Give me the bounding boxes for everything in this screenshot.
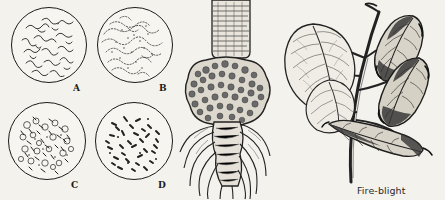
field-b-contents <box>98 8 172 82</box>
microscope-field-c <box>8 102 86 180</box>
field-a-label: A <box>73 83 80 93</box>
crown-gall-root <box>178 0 288 200</box>
microscope-field-a <box>11 7 87 83</box>
illustration-plate: A <box>0 0 445 200</box>
field-b-label: B <box>159 83 167 93</box>
field-d-contents <box>96 103 172 179</box>
field-d-label: D <box>158 180 166 190</box>
microscope-field-b <box>97 7 173 83</box>
microscope-field-d <box>95 102 173 180</box>
field-a-contents <box>12 8 86 82</box>
field-c-contents <box>9 103 85 179</box>
field-c-label: C <box>71 180 78 190</box>
figure-caption: Fire-blight <box>357 185 406 196</box>
fire-blight-branch <box>283 0 445 186</box>
